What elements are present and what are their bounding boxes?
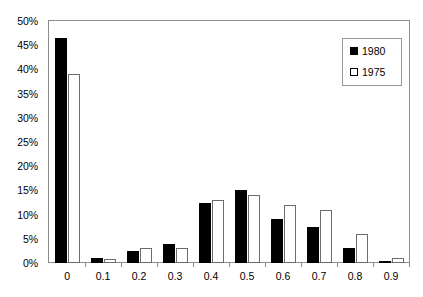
x-axis-tickmark <box>85 263 86 267</box>
bar-group <box>121 21 157 263</box>
x-axis-tick-label: 0 <box>64 270 70 282</box>
bar-group <box>85 21 121 263</box>
x-axis-tick-label: 0.6 <box>276 270 290 282</box>
legend-item-1980: 1980 <box>350 45 394 57</box>
x-axis-tickmark <box>301 263 302 267</box>
x-axis-tickmark <box>337 263 338 267</box>
bar-1975-0.4 <box>212 200 224 263</box>
bar-1980-0.3 <box>163 244 175 263</box>
x-axis-tickmark <box>409 263 410 267</box>
y-axis-tick-label: 25% <box>17 136 38 148</box>
bar-1980-0.5 <box>235 190 247 263</box>
y-axis-tick-label: 0% <box>23 257 38 269</box>
legend-label: 1975 <box>362 66 385 78</box>
bar-group <box>265 21 301 263</box>
legend-swatch-icon <box>350 47 358 55</box>
bar-1980-0.2 <box>127 251 139 263</box>
bar-1975-0.5 <box>248 195 260 263</box>
y-axis-tick-label: 5% <box>23 233 38 245</box>
bar-group <box>301 21 337 263</box>
y-axis-tick-label: 30% <box>17 112 38 124</box>
bar-chart: 0%5%10%15%20%25%30%35%40%45%50% 00.10.20… <box>0 0 423 297</box>
x-axis-tick-label: 0.5 <box>240 270 254 282</box>
bar-1980-0.9 <box>379 261 391 263</box>
bar-1975-0.9 <box>392 258 404 263</box>
bar-1980-0.6 <box>271 219 283 263</box>
x-axis-tickmark <box>193 263 194 267</box>
bar-group <box>157 21 193 263</box>
y-axis: 0%5%10%15%20%25%30%35%40%45%50% <box>0 0 44 297</box>
y-axis-tick-label: 35% <box>17 88 38 100</box>
x-axis-tick-label: 0.4 <box>204 270 218 282</box>
bar-1975-0.3 <box>176 248 188 263</box>
bar-1980-0.4 <box>199 203 211 264</box>
chart-legend: 19801975 <box>342 38 402 86</box>
bar-1975-0.2 <box>140 248 152 263</box>
bar-group <box>49 21 85 263</box>
y-axis-tick-label: 45% <box>17 39 38 51</box>
legend-swatch-icon <box>350 68 358 76</box>
y-axis-tick-label: 40% <box>17 63 38 75</box>
x-axis-tickmark <box>265 263 266 267</box>
bar-1975-0 <box>68 74 80 263</box>
bar-1975-0.1 <box>104 259 116 263</box>
bar-1980-0.8 <box>343 248 355 263</box>
y-axis-tick-label: 10% <box>17 209 38 221</box>
x-axis-tick-label: 0.1 <box>96 270 110 282</box>
x-axis-tickmark <box>157 263 158 267</box>
x-axis-tick-label: 0.2 <box>132 270 146 282</box>
x-axis-tick-label: 0.9 <box>384 270 398 282</box>
bar-1975-0.7 <box>320 210 332 263</box>
bar-1975-0.8 <box>356 234 368 263</box>
x-axis-tickmark <box>229 263 230 267</box>
x-axis-tick-label: 0.3 <box>168 270 182 282</box>
bar-group <box>229 21 265 263</box>
bar-1975-0.6 <box>284 205 296 263</box>
x-axis-tick-label: 0.8 <box>348 270 362 282</box>
legend-item-1975: 1975 <box>350 66 394 78</box>
bar-1980-0.1 <box>91 258 103 263</box>
bar-group <box>193 21 229 263</box>
y-axis-tick-label: 50% <box>17 15 38 27</box>
legend-label: 1980 <box>362 45 385 57</box>
y-axis-tick-label: 15% <box>17 184 38 196</box>
x-axis-tick-label: 0.7 <box>312 270 326 282</box>
x-axis-tickmark <box>121 263 122 267</box>
bar-1980-0 <box>55 38 67 263</box>
bar-1980-0.7 <box>307 227 319 263</box>
x-axis-tickmark <box>373 263 374 267</box>
y-axis-tick-label: 20% <box>17 160 38 172</box>
